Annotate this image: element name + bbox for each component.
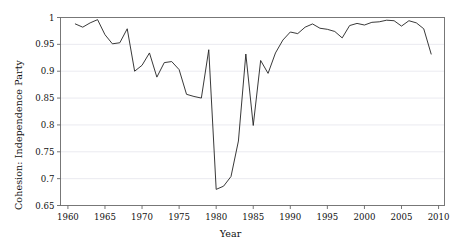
xtick-label: 1975 [168, 212, 190, 222]
ytick-label: 1 [49, 13, 54, 23]
xtick-label: 1985 [242, 212, 264, 222]
chart-figure: 1960196519701975198019851990199520002005… [0, 0, 461, 248]
xtick-label: 2010 [428, 212, 450, 222]
xtick-label: 2000 [354, 212, 376, 222]
xtick-label: 1965 [94, 212, 116, 222]
ytick-label: 0.8 [41, 120, 55, 130]
xtick-label: 1980 [205, 212, 227, 222]
ytick-label: 0.65 [35, 201, 54, 211]
ytick-label: 0.75 [35, 147, 54, 157]
xtick-labels-group: 1960196519701975198019851990199520002005… [57, 212, 450, 222]
xtick-label: 1995 [316, 212, 338, 222]
ytick-label: 0.95 [35, 39, 54, 49]
xtick-label: 2005 [391, 212, 413, 222]
x-axis-title: Year [0, 228, 461, 239]
line-chart-canvas: 1960196519701975198019851990199520002005… [0, 0, 461, 248]
xtick-label: 1990 [279, 212, 301, 222]
ytick-label: 0.85 [35, 93, 54, 103]
xtick-label: 1960 [57, 212, 79, 222]
ytick-label: 0.7 [41, 174, 55, 184]
xtick-label: 1970 [131, 212, 153, 222]
y-axis-title: Cohesion: Independence Party [13, 60, 24, 210]
ytick-label: 0.9 [41, 66, 55, 76]
